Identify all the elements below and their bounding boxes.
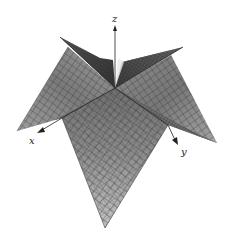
y-arrow-icon — [172, 137, 178, 145]
x-axis-label: x — [29, 135, 35, 146]
x-arrow-icon — [37, 127, 45, 133]
z-axis-label: z — [111, 13, 118, 24]
z-arrow-icon — [113, 25, 117, 31]
surface-plot: z x y — [0, 0, 235, 243]
y-axis-label: y — [180, 146, 187, 157]
